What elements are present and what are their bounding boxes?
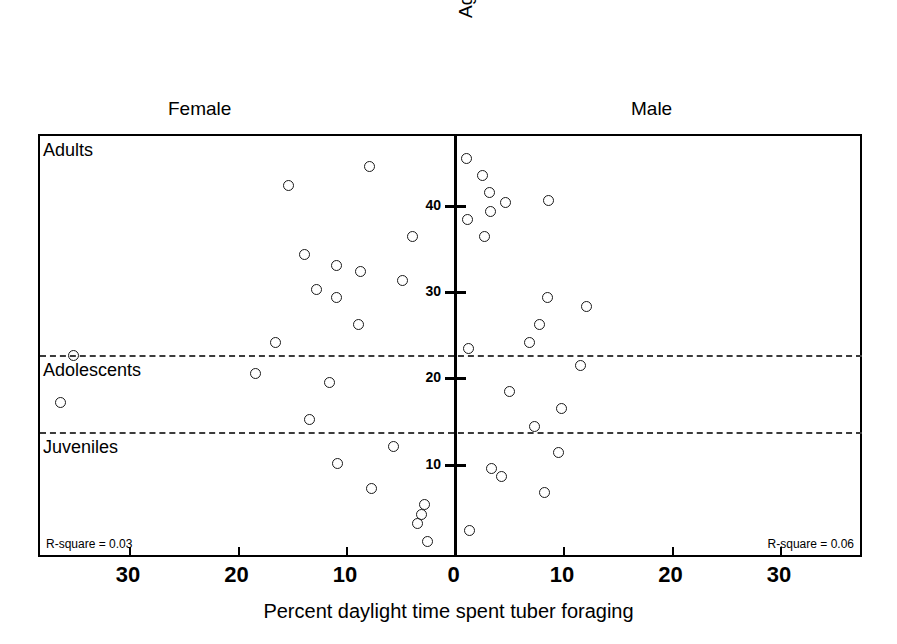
y-axis-tick-label-20: 20 — [425, 369, 441, 385]
data-point — [397, 275, 408, 286]
data-point — [462, 214, 473, 225]
age-band-label-adolescents: Adolescents — [43, 360, 141, 381]
data-point — [422, 536, 433, 547]
x-axis-tick-label-1: 20 — [224, 562, 248, 588]
x-axis-tick-label-5: 20 — [658, 562, 682, 588]
data-point — [463, 343, 474, 354]
data-point — [332, 458, 343, 469]
y-axis-tick-label-30: 30 — [425, 283, 441, 299]
data-point — [581, 301, 592, 312]
data-point — [270, 337, 281, 348]
x-axis-tick-label-0: 30 — [116, 562, 140, 588]
data-point — [485, 206, 496, 217]
data-point — [407, 231, 418, 242]
data-point — [542, 292, 553, 303]
data-point — [331, 292, 342, 303]
male-rsquare-annotation: R-square = 0.06 — [768, 537, 854, 551]
data-point — [461, 153, 472, 164]
y-axis-tick-20: 20 — [445, 377, 466, 380]
data-point — [304, 414, 315, 425]
y-axis-tick-label-10: 10 — [425, 456, 441, 472]
data-point — [529, 421, 540, 432]
data-point — [556, 403, 567, 414]
x-axis-tick-1 — [238, 547, 240, 557]
y-axis-tick-40: 40 — [445, 205, 466, 208]
scatter-figure: Female Male Age rank Adults Adolescents … — [0, 0, 897, 644]
x-axis-tick-label-3: 0 — [447, 562, 459, 588]
female-group-label: Female — [168, 98, 231, 120]
data-point — [479, 231, 490, 242]
plot-area: Adults Adolescents Juveniles 40302010 R-… — [38, 134, 862, 557]
data-point — [331, 260, 342, 271]
y-axis-tick-10: 10 — [445, 464, 466, 467]
y-axis-tick-30: 30 — [445, 291, 466, 294]
x-axis-tick-label-2: 10 — [333, 562, 357, 588]
data-point — [55, 397, 66, 408]
data-point — [283, 180, 294, 191]
age-band-label-juveniles: Juveniles — [43, 437, 118, 458]
x-axis-title: Percent daylight time spent tuber foragi… — [0, 600, 897, 623]
x-axis-tick-3 — [455, 547, 457, 557]
adolescents-juveniles-divider — [40, 432, 862, 434]
y-axis-title: Age rank — [455, 0, 477, 18]
data-point — [486, 463, 497, 474]
x-axis-tick-label-4: 10 — [550, 562, 574, 588]
data-point — [366, 483, 377, 494]
data-point — [388, 441, 399, 452]
x-axis-tick-4 — [563, 547, 565, 557]
age-band-label-adults: Adults — [43, 140, 93, 161]
data-point — [324, 377, 335, 388]
data-point — [553, 447, 564, 458]
data-point — [355, 266, 366, 277]
x-axis-tick-2 — [346, 547, 348, 557]
data-point — [477, 170, 488, 181]
data-point — [496, 471, 507, 482]
data-point — [353, 319, 364, 330]
data-point — [484, 187, 495, 198]
x-axis-tick-5 — [672, 547, 674, 557]
data-point — [575, 360, 586, 371]
data-point — [500, 197, 511, 208]
x-axis-tick-label-6: 30 — [767, 562, 791, 588]
data-point — [543, 195, 554, 206]
adults-adolescents-divider — [40, 355, 862, 357]
female-rsquare-annotation: R-square = 0.03 — [46, 537, 132, 551]
y-axis-tick-label-40: 40 — [425, 197, 441, 213]
data-point — [364, 161, 375, 172]
data-point — [524, 337, 535, 348]
data-point — [534, 319, 545, 330]
data-point — [250, 368, 261, 379]
male-group-label: Male — [631, 98, 672, 120]
data-point — [299, 249, 310, 260]
data-point — [412, 518, 423, 529]
data-point — [539, 487, 550, 498]
data-point — [464, 525, 475, 536]
data-point — [311, 284, 322, 295]
center-vertical-axis — [454, 136, 457, 557]
data-point — [504, 386, 515, 397]
